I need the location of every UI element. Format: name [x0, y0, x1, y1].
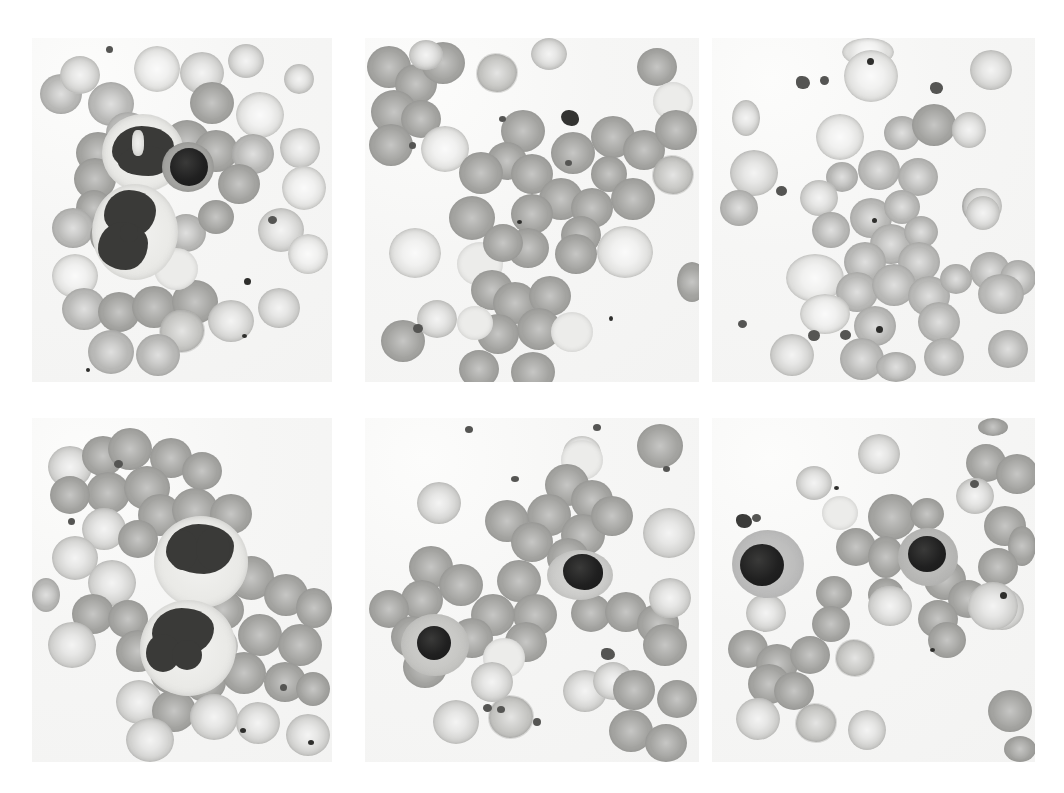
erythrocyte [286, 714, 330, 756]
erythrocyte [198, 200, 234, 234]
erythrocyte [796, 704, 836, 742]
erythrocyte [48, 622, 96, 668]
lymphocyte-nucleus [908, 536, 946, 572]
panel-top-left [32, 38, 332, 382]
erythrocyte [32, 578, 60, 612]
platelet [533, 718, 541, 726]
erythrocyte [677, 262, 699, 302]
erythrocyte [369, 124, 413, 166]
erythrocyte [988, 690, 1032, 732]
erythrocyte [970, 50, 1012, 90]
erythrocyte [228, 44, 264, 78]
erythrocyte [551, 132, 595, 174]
lymphocyte-nucleus [170, 148, 208, 186]
erythrocyte [978, 548, 1018, 586]
debris-speck [308, 740, 314, 745]
platelet [499, 116, 506, 122]
howell-jolly-inclusion [1000, 592, 1007, 599]
erythrocyte [278, 624, 322, 666]
erythrocyte [296, 672, 330, 706]
platelet [268, 216, 277, 224]
platelet [244, 278, 251, 285]
erythrocyte [655, 110, 697, 150]
panel-top-right [712, 38, 1035, 382]
erythrocyte [118, 520, 158, 558]
platelet [106, 46, 113, 53]
erythrocyte [816, 114, 864, 160]
erythrocyte [637, 424, 683, 468]
panel-top-middle [365, 38, 699, 382]
erythrocyte [433, 700, 479, 744]
erythrocyte [52, 208, 94, 248]
lymphocyte-nucleus [563, 554, 603, 590]
erythrocyte [208, 300, 254, 342]
erythrocyte [88, 330, 134, 374]
erythrocyte [940, 264, 972, 294]
platelet-clump [796, 76, 810, 89]
erythrocyte [848, 710, 886, 750]
platelet [808, 330, 820, 341]
erythrocyte [790, 636, 830, 674]
erythrocyte [800, 294, 850, 334]
erythrocyte [457, 306, 493, 340]
platelet-clump [561, 110, 579, 126]
erythrocyte [238, 614, 282, 656]
neutrophil-nuclear-cleft [132, 130, 144, 156]
erythrocyte [296, 588, 332, 628]
erythrocyte [912, 104, 956, 146]
erythrocyte [459, 350, 499, 382]
platelet [970, 480, 979, 488]
erythrocyte [613, 670, 655, 710]
lymphocyte-nucleus [417, 626, 451, 660]
erythrocyte [218, 164, 260, 204]
platelet [820, 76, 829, 85]
erythrocyte [611, 178, 655, 220]
platelet [840, 330, 851, 340]
erythrocyte [409, 40, 443, 70]
erythrocyte [816, 576, 852, 610]
panel-bottom-middle [365, 418, 699, 762]
erythrocyte [868, 586, 912, 626]
erythrocyte [746, 594, 786, 632]
figure-photomicrograph-grid [0, 0, 1064, 793]
platelet-clump [930, 82, 943, 94]
platelet [497, 706, 505, 713]
erythrocyte [988, 330, 1028, 368]
howell-jolly-inclusion [867, 58, 874, 65]
debris-speck [930, 648, 935, 652]
erythrocyte [288, 234, 328, 274]
neutrophil-nuclear-bridge [120, 224, 138, 242]
erythrocyte [645, 724, 687, 762]
panel-bottom-right [712, 418, 1035, 762]
erythrocyte [836, 640, 874, 676]
erythrocyte [182, 452, 222, 490]
platelet [280, 684, 287, 691]
erythrocyte [190, 82, 234, 124]
erythrocyte [812, 212, 850, 248]
howell-jolly-inclusion [876, 326, 883, 333]
erythrocyte [966, 196, 1000, 230]
platelet [114, 460, 123, 468]
erythrocyte [477, 54, 517, 92]
erythrocyte [280, 128, 320, 168]
erythrocyte [1004, 736, 1035, 762]
erythrocyte [910, 498, 944, 530]
debris-speck [834, 486, 839, 490]
debris-speck [609, 316, 613, 321]
platelet [68, 518, 75, 525]
erythrocyte [996, 454, 1035, 494]
erythrocyte [978, 274, 1024, 314]
erythrocyte [417, 482, 461, 524]
erythrocyte [282, 166, 326, 210]
erythrocyte [657, 680, 697, 718]
platelet [663, 466, 670, 472]
erythrocyte [459, 152, 503, 194]
erythrocyte [417, 300, 457, 338]
erythrocyte [653, 156, 693, 194]
debris-speck [86, 368, 90, 372]
erythrocyte [389, 228, 441, 278]
platelet [593, 424, 601, 431]
erythrocyte [732, 100, 760, 136]
erythrocyte [190, 694, 238, 740]
erythrocyte [952, 112, 986, 148]
